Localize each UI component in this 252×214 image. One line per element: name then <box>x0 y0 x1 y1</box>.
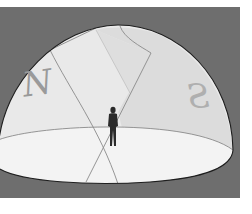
south-label: S <box>187 76 210 116</box>
celestial-dome-diagram: N S <box>0 0 252 214</box>
